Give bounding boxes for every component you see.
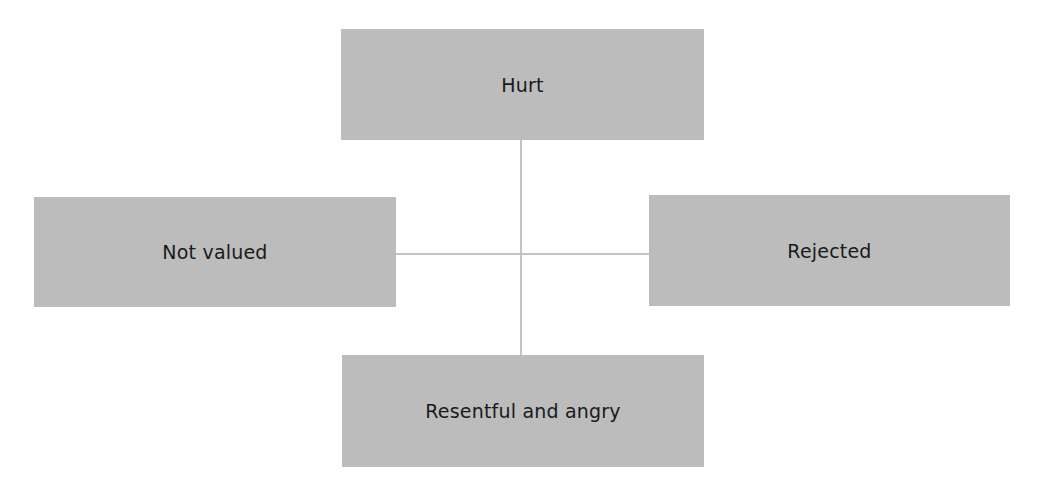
node-resentful-and-angry: Resentful and angry xyxy=(342,355,704,467)
node-rejected: Rejected xyxy=(649,195,1010,306)
node-label: Hurt xyxy=(501,74,543,96)
vertical-connector-line xyxy=(520,140,522,355)
node-hurt: Hurt xyxy=(341,29,704,140)
node-not-valued: Not valued xyxy=(34,197,396,307)
node-label: Rejected xyxy=(787,240,871,262)
node-label: Resentful and angry xyxy=(425,400,621,422)
node-label: Not valued xyxy=(162,241,267,263)
emotion-diagram: Hurt Not valued Rejected Resentful and a… xyxy=(0,0,1056,484)
horizontal-connector-line xyxy=(396,253,649,255)
